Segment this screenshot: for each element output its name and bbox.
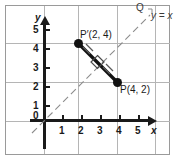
point-p-label: P(4, 2) (120, 84, 150, 95)
x-axis (30, 119, 149, 122)
x-tick-label-4: 4 (116, 126, 122, 136)
y-tick-label-4: 4 (33, 44, 39, 54)
y-tick-5 (44, 29, 50, 31)
y-tick-label-0: 0 (33, 111, 39, 121)
coordinate-plane-figure: 1 2 3 4 5 5 4 3 2 1 0 x y P′(2, 4) P(4 (0, 0, 178, 165)
gridline-horizontal-y4 (6, 43, 170, 44)
x-tick-1 (62, 115, 64, 120)
gridline-horizontal-y2 (6, 82, 170, 83)
x-tick-label-2: 2 (78, 126, 84, 136)
x-tick-2 (81, 115, 83, 120)
y-tick-3 (44, 67, 50, 69)
x-axis-arrow-icon (148, 116, 157, 126)
x-tick-3 (100, 115, 102, 120)
mirror-line-label: y = x (151, 11, 172, 21)
x-tick-label-5: 5 (135, 126, 141, 136)
x-tick-4 (119, 115, 121, 120)
figure-frame (5, 5, 170, 155)
point-p-prime-label: P′(2, 4) (80, 29, 112, 40)
y-axis-arrow-icon (40, 16, 50, 25)
y-axis-label: y (35, 13, 41, 23)
x-tick-label-3: 3 (97, 126, 103, 136)
point-q-label: Q (136, 3, 144, 13)
y-tick-2 (44, 86, 50, 88)
x-tick-5 (138, 115, 140, 120)
x-tick-label-1: 1 (59, 126, 65, 136)
y-tick-4 (44, 48, 50, 50)
y-tick-label-5: 5 (33, 25, 39, 35)
y-tick-label-2: 2 (33, 82, 39, 92)
y-tick-1 (44, 105, 50, 107)
y-tick-label-3: 3 (33, 63, 39, 73)
x-axis-label: x (151, 126, 157, 136)
